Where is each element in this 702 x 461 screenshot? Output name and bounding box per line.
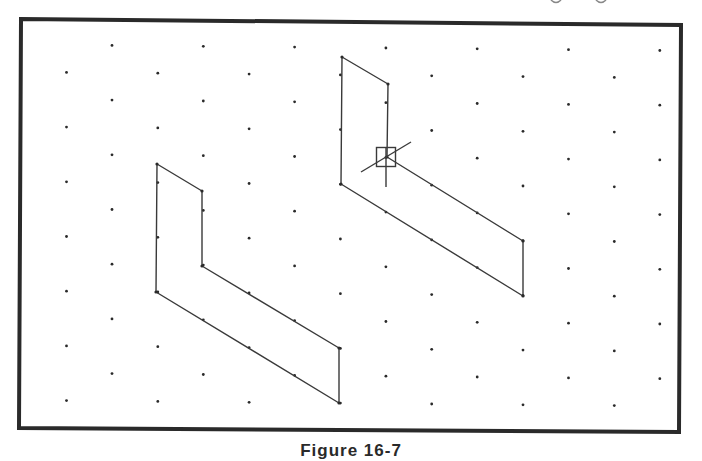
grid-dot [522,403,525,406]
grid-dot [567,103,570,106]
grid-dot [476,157,479,160]
grid-dot [248,237,251,240]
grid-dot [522,130,525,133]
grid-dot [65,290,68,293]
clipped-heading-text-fragments [551,0,606,3]
grid-dot [522,349,525,352]
grid-dot [111,318,114,321]
grid-dot [658,377,661,380]
grid-dot [613,76,616,79]
grid-dot [385,320,388,323]
original-l-shape[interactable] [154,162,340,404]
grid-dot [65,126,68,129]
grid-dot [385,375,388,378]
grid-dot [613,295,616,298]
vertex-point [337,401,340,404]
grid-dot [658,104,661,107]
grid-dot [111,153,114,156]
grid-dot [339,238,342,241]
grid-dot [430,74,433,77]
grid-dot [111,372,114,375]
vertex-point [200,264,203,267]
grid-dot [476,47,479,50]
grid-dot [476,102,479,105]
grid-dot [111,208,114,211]
grid-dot [385,265,388,268]
grid-dot [567,322,570,325]
crosshair-cursor [361,142,411,187]
vertex-point [521,294,524,297]
grid-dot [293,155,296,158]
grid-dot [202,45,205,48]
grid-dot [658,49,661,52]
grid-dot [613,240,616,243]
grid-dot [65,71,68,74]
grid-dot [248,182,251,185]
vertex-point [337,346,340,349]
grid-dot [156,72,159,75]
grid-dot [111,44,114,47]
grid-dot [293,265,296,268]
grid-dot [248,127,251,130]
grid-dot [567,48,570,51]
grid-dot [567,267,570,270]
grid-dot [567,212,570,215]
vertex-point [340,55,343,58]
grid-dot [385,47,388,50]
grid-dot [385,101,388,104]
isometric-dot-grid [65,44,661,407]
grid-dot [293,210,296,213]
grid-dot [248,401,251,404]
grid-dot [658,323,661,326]
grid-dot [613,404,616,407]
grid-dot [65,235,68,238]
grid-dot [658,213,661,216]
grid-dot [430,129,433,132]
shapes-layer [154,55,524,404]
grid-dot [293,46,296,49]
grid-dot [248,73,251,76]
grid-dot [522,185,525,188]
grid-dot [156,400,159,403]
grid-dot [658,159,661,162]
grid-dot [476,321,479,324]
grid-dot [430,293,433,296]
copied-l-shape[interactable] [339,55,524,297]
grid-dot [202,154,205,157]
grid-dot [65,399,68,402]
vertex-point [386,82,389,85]
grid-dot [567,158,570,161]
drawing-frame-border [19,19,681,432]
vertex-point [154,290,157,293]
vertex-point [155,162,158,165]
grid-dot [339,292,342,295]
grid-dot [156,127,159,130]
grid-dot [613,350,616,353]
vertex-point [339,182,342,185]
grid-dot [293,100,296,103]
grid-dot [202,373,205,376]
grid-dot [111,263,114,266]
grid-dot [430,348,433,351]
grid-dot [522,75,525,78]
grid-dot [430,403,433,406]
grid-dot [65,345,68,348]
grid-dot [111,99,114,102]
grid-dot [613,185,616,188]
grid-dot [613,131,616,134]
grid-dot [476,376,479,379]
grid-dot [567,377,570,380]
grid-dot [65,180,68,183]
grid-dot [202,100,205,103]
grid-dot [658,268,661,271]
grid-dot [156,345,159,348]
vertex-point [521,239,524,242]
vertex-point [200,189,203,192]
figure-caption: Figure 16-7 [0,441,702,461]
